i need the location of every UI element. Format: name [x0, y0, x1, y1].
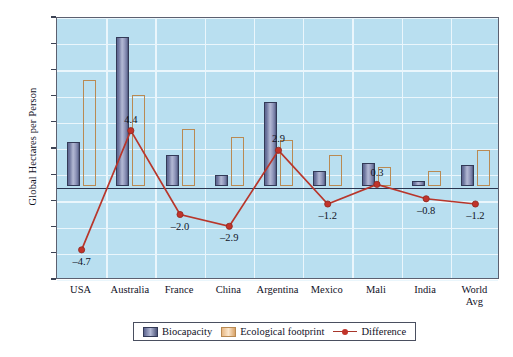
difference-value-label: –1.2 [466, 210, 484, 221]
difference-value-label: –2.9 [220, 232, 238, 243]
difference-data-point[interactable] [79, 247, 85, 253]
x-axis-label-china: China [204, 284, 253, 296]
y-axis-tick-mark [51, 43, 56, 44]
legend-item-ecological-footprint[interactable]: Ecological footprint [221, 326, 324, 337]
x-axis-label-france: France [154, 284, 203, 296]
legend-item-biocapacity[interactable]: Biocapacity [143, 326, 212, 337]
y-axis-tick-mark [51, 252, 56, 253]
difference-data-point[interactable] [374, 181, 380, 187]
difference-value-label: –2.0 [171, 221, 189, 232]
x-axis-label-mali: Mali [351, 284, 400, 296]
difference-data-point[interactable] [423, 196, 429, 202]
y-axis-tick-mark [51, 226, 56, 227]
chart-legend: Biocapacity Ecological footprint Differe… [133, 322, 416, 341]
legend-label-difference: Difference [361, 326, 406, 337]
difference-data-point[interactable] [472, 201, 478, 207]
y-axis-tick-mark [51, 147, 56, 148]
x-axis-label-usa: USA [56, 284, 105, 296]
difference-value-label: –1.2 [319, 210, 337, 221]
x-axis-label-australia: Australia [105, 284, 154, 296]
x-axis-label-world-avg: WorldAvg [450, 284, 499, 307]
y-axis-tick-mark [51, 95, 56, 96]
difference-data-point[interactable] [177, 211, 183, 217]
difference-data-point[interactable] [226, 223, 232, 229]
y-axis-tick-mark [51, 200, 56, 201]
y-axis-tick-mark [51, 16, 56, 17]
difference-value-label: 4.4 [124, 114, 137, 125]
difference-value-label: 2.9 [272, 133, 285, 144]
plot-area: –4.74.4–2.0–2.92.9–1.20.3–0.8–1.2 [56, 17, 499, 279]
difference-value-label: –0.8 [417, 205, 435, 216]
x-axis-label-mexico: Mexico [302, 284, 351, 296]
difference-value-label: 0.3 [370, 167, 383, 178]
difference-line-layer [57, 18, 500, 280]
difference-data-point[interactable] [275, 147, 281, 153]
gridline-horizontal [57, 280, 498, 281]
y-axis-title: Global Hectares per Person [27, 27, 38, 267]
x-axis-label-india: India [401, 284, 450, 296]
chart-root: Global Hectares per Person –4.74.4–2.0–2… [0, 0, 513, 357]
legend-label-biocapacity: Biocapacity [162, 326, 212, 337]
legend-label-ecological-footprint: Ecological footprint [240, 326, 324, 337]
y-axis-tick-mark [51, 121, 56, 122]
y-axis-tick-mark [51, 278, 56, 279]
difference-value-label: –4.7 [72, 256, 90, 267]
difference-data-point[interactable] [325, 201, 331, 207]
x-axis-label-argentina: Argentina [253, 284, 302, 296]
legend-item-difference[interactable]: Difference [333, 326, 406, 337]
legend-swatch-biocapacity-icon [143, 327, 158, 337]
difference-data-point[interactable] [128, 128, 134, 134]
legend-swatch-ecological-footprint-icon [221, 327, 236, 337]
legend-line-marker-difference-icon [333, 327, 357, 337]
y-axis-tick-mark [51, 69, 56, 70]
y-axis-tick-mark [51, 174, 56, 175]
